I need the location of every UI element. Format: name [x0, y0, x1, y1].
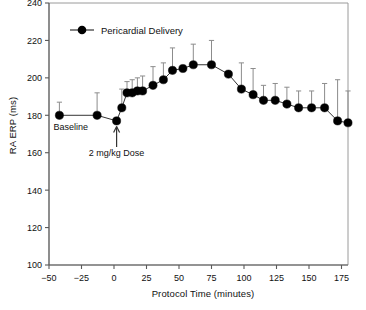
legend-marker [78, 26, 87, 35]
y-tick-label-160: 160 [27, 148, 42, 158]
data-point-24[interactable] [344, 119, 352, 127]
x-tick-label-0: 0 [111, 273, 116, 283]
data-point-0[interactable] [55, 111, 63, 119]
chart-figure: 100120140160180200220240−50−250255075100… [0, 0, 366, 310]
chart-plot-area: 100120140160180200220240−50−250255075100… [0, 0, 366, 310]
plot-frame [49, 3, 348, 265]
x-tick-label-150: 150 [301, 273, 316, 283]
x-axis-title: Protocol Time (minutes) [118, 288, 288, 299]
y-tick-label-240: 240 [27, 0, 42, 8]
y-tick-label-220: 220 [27, 36, 42, 46]
data-point-11[interactable] [179, 64, 187, 72]
data-point-9[interactable] [159, 76, 167, 84]
data-point-12[interactable] [189, 61, 197, 69]
x-tick-label-175: 175 [334, 273, 349, 283]
data-point-21[interactable] [308, 104, 316, 112]
data-point-13[interactable] [207, 61, 215, 69]
data-point-20[interactable] [295, 104, 303, 112]
y-tick-label-120: 120 [27, 223, 42, 233]
data-point-22[interactable] [321, 104, 329, 112]
data-point-2[interactable] [113, 117, 121, 125]
data-point-3[interactable] [118, 104, 126, 112]
y-axis-title: RA ERP (ms) [7, 66, 18, 186]
dose-label: 2 mg/kg Dose [89, 148, 145, 158]
x-tick-label-50: 50 [174, 273, 184, 283]
x-tick-label--50: −50 [41, 273, 56, 283]
x-tick-label-125: 125 [269, 273, 284, 283]
series-line-0 [59, 65, 348, 123]
data-point-7[interactable] [139, 87, 147, 95]
y-tick-label-180: 180 [27, 111, 42, 121]
x-tick-label--25: −25 [74, 273, 89, 283]
data-point-17[interactable] [259, 96, 267, 104]
data-point-10[interactable] [168, 66, 176, 74]
y-tick-label-100: 100 [27, 260, 42, 270]
data-point-23[interactable] [334, 117, 342, 125]
data-point-8[interactable] [149, 81, 157, 89]
legend-label-0: Pericardial Delivery [101, 25, 183, 36]
data-point-16[interactable] [249, 91, 257, 99]
data-point-19[interactable] [283, 100, 291, 108]
baseline-label: Baseline [53, 122, 88, 132]
data-point-14[interactable] [224, 70, 232, 78]
y-tick-label-140: 140 [27, 186, 42, 196]
data-point-15[interactable] [237, 85, 245, 93]
x-tick-label-100: 100 [236, 273, 251, 283]
x-tick-label-75: 75 [206, 273, 216, 283]
x-tick-label-25: 25 [141, 273, 151, 283]
data-point-18[interactable] [271, 96, 279, 104]
data-point-1[interactable] [93, 111, 101, 119]
y-tick-label-200: 200 [27, 73, 42, 83]
